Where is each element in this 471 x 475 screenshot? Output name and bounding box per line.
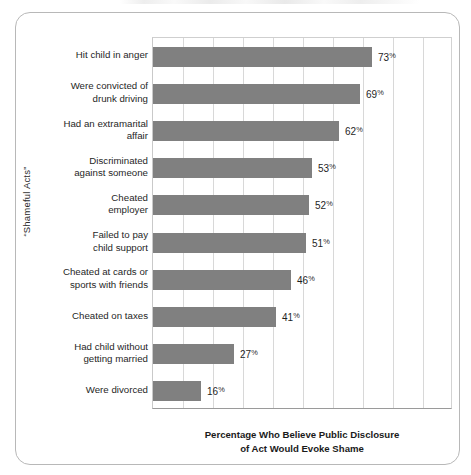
bar-value-number: 41 [282, 312, 293, 323]
category-label: Had child withoutgetting married [36, 341, 148, 366]
bar-value-label: 73% [378, 51, 396, 62]
bar[interactable] [153, 344, 234, 364]
bar-row[interactable]: 62% [153, 121, 453, 141]
bar-row[interactable]: 52% [153, 195, 453, 215]
bar-value-number: 73 [378, 51, 389, 62]
bar-row[interactable]: 27% [153, 344, 453, 364]
bar-value-label: 41% [282, 311, 300, 322]
bar-value-number: 16 [207, 386, 218, 397]
category-label-line: Cheated on taxes [36, 310, 148, 322]
bar-value-label: 46% [297, 274, 315, 285]
percent-symbol: % [326, 200, 333, 209]
category-label: Hit child in anger [36, 49, 148, 61]
category-label-line: Cheated [36, 192, 148, 204]
bar[interactable] [153, 270, 291, 290]
percent-symbol: % [308, 274, 315, 283]
category-label-line: against someone [36, 167, 148, 179]
percent-symbol: % [251, 349, 258, 358]
category-label-line: employer [36, 204, 148, 216]
bar-value-number: 62 [345, 126, 356, 137]
bar-row[interactable]: 41% [153, 307, 453, 327]
bar[interactable] [153, 195, 309, 215]
category-label: Had an extramaritalaffair [36, 118, 148, 143]
bar-row[interactable]: 51% [153, 233, 453, 253]
bar-value-label: 69% [366, 88, 384, 99]
bar-value-number: 27 [240, 349, 251, 360]
percent-symbol: % [323, 237, 330, 246]
category-label-line: sports with friends [36, 279, 148, 291]
category-label: Were divorced [36, 384, 148, 396]
bar-value-number: 52 [315, 200, 326, 211]
x-axis-title: Percentage Who Believe Public Disclosure… [152, 428, 452, 455]
bar-value-number: 46 [297, 274, 308, 285]
category-label-line: affair [36, 130, 148, 142]
figure-container: “Shameful Acts” Hit child in angerWere c… [0, 0, 471, 475]
percent-symbol: % [293, 311, 300, 320]
clipped-caption-sliver [120, 0, 420, 4]
bar-value-number: 51 [312, 237, 323, 248]
bar-row[interactable]: 53% [153, 158, 453, 178]
plot-area: 73%69%62%53%52%51%46%41%27%16% [152, 37, 452, 409]
bar-value-label: 53% [318, 163, 336, 174]
bar-value-label: 27% [240, 349, 258, 360]
category-label: Cheated at cards orsports with friends [36, 266, 148, 291]
bar[interactable] [153, 307, 276, 327]
bar[interactable] [153, 158, 312, 178]
bar[interactable] [153, 84, 360, 104]
percent-symbol: % [218, 386, 225, 395]
y-axis-title: “Shameful Acts” [21, 147, 32, 257]
category-label-line: Failed to pay [36, 229, 148, 241]
category-label-line: Were divorced [36, 384, 148, 396]
bar[interactable] [153, 47, 372, 67]
category-label-line: drunk driving [36, 93, 148, 105]
bar-value-number: 69 [366, 88, 377, 99]
percent-symbol: % [389, 51, 396, 60]
category-label-line: Cheated at cards or [36, 266, 148, 278]
category-label: Cheatedemployer [36, 192, 148, 217]
category-label-line: Discriminated [36, 155, 148, 167]
category-label: Cheated on taxes [36, 310, 148, 322]
category-label: Discriminatedagainst someone [36, 155, 148, 180]
bar-value-label: 51% [312, 237, 330, 248]
percent-symbol: % [377, 88, 384, 97]
category-label-column: Hit child in angerWere convicted ofdrunk… [36, 37, 148, 409]
bar-value-label: 16% [207, 386, 225, 397]
category-label-line: Hit child in anger [36, 49, 148, 61]
bar-row[interactable]: 46% [153, 270, 453, 290]
x-axis-title-line: Percentage Who Believe Public Disclosure [152, 428, 452, 442]
category-label-line: Had an extramarital [36, 118, 148, 130]
category-label-line: child support [36, 242, 148, 254]
percent-symbol: % [356, 125, 363, 134]
bar[interactable] [153, 381, 201, 401]
bar-value-label: 52% [315, 200, 333, 211]
bar-value-number: 53 [318, 163, 329, 174]
bar-row[interactable]: 69% [153, 84, 453, 104]
category-label: Failed to paychild support [36, 229, 148, 254]
bar[interactable] [153, 233, 306, 253]
bar[interactable] [153, 121, 339, 141]
x-axis-title-line: of Act Would Evoke Shame [152, 442, 452, 456]
bar-row[interactable]: 16% [153, 381, 453, 401]
percent-symbol: % [329, 163, 336, 172]
bar-value-label: 62% [345, 125, 363, 136]
bar-row[interactable]: 73% [153, 47, 453, 67]
category-label-line: Were convicted of [36, 80, 148, 92]
category-label-line: getting married [36, 353, 148, 365]
category-label-line: Had child without [36, 341, 148, 353]
category-label: Were convicted ofdrunk driving [36, 80, 148, 105]
